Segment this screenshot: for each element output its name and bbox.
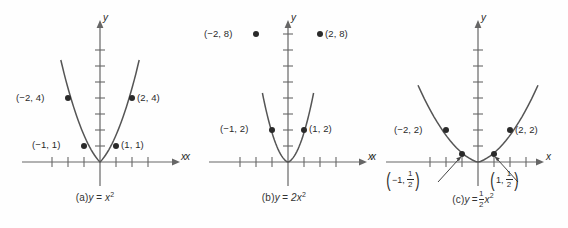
caption-a: (a)y = x2 — [0, 191, 190, 203]
point-marker-2-4 — [129, 95, 135, 101]
caption-c-eq: = — [472, 194, 478, 205]
caption-c: (c)y =12x2 — [378, 189, 568, 209]
frac-label-left: ( −1, 1 2 ) — [385, 170, 421, 189]
point-marker-1-half — [491, 151, 497, 157]
paren-open-right: ( — [490, 175, 494, 185]
frac-left-fraction: 1 2 — [407, 170, 414, 189]
frac-right-lead: 1, — [496, 175, 504, 185]
caption-a-eq: = x — [96, 192, 110, 203]
point-marker-2-2 — [507, 127, 513, 133]
frac-left-lead: −1, — [392, 175, 405, 185]
point-label-neg2-2: (−2, 2) — [394, 124, 422, 135]
caption-a-y: y — [89, 192, 94, 203]
paren-close-left: ) — [415, 175, 419, 185]
point-marker-neg1-1 — [81, 143, 87, 149]
panel-a: x y (−2, 4) (2, 4) (−1, 1) (1, 1) (a)y =… — [0, 0, 190, 228]
caption-b-prefix: (b) — [262, 192, 275, 203]
y-axis-label-c: y — [481, 12, 486, 23]
point-label-2-2: (2, 2) — [515, 124, 538, 135]
x-axis-label-c-left: x — [371, 151, 376, 162]
point-marker-neg2-4 — [65, 95, 71, 101]
caption-a-prefix: (a) — [76, 192, 89, 203]
point-label-neg2-4: (−2, 4) — [16, 92, 44, 103]
frac-right-inner: 1, 1 2 — [496, 170, 513, 189]
panel-c-plot — [378, 0, 568, 190]
caption-a-exp: 2 — [110, 191, 114, 198]
point-label-neg1-2: (−1, 2) — [220, 123, 248, 134]
leader-arrow-left — [438, 160, 458, 182]
caption-b-eq: = 2x — [282, 192, 302, 203]
panel-b: x x y (−2, 8) (2, 8) (−1, 2) (1, 2) (b)y… — [189, 0, 379, 228]
frac-right-numerator: 1 — [507, 170, 511, 178]
point-marker-2-8 — [317, 31, 323, 37]
frac-left-numerator: 1 — [408, 170, 412, 178]
y-axis-label-a: y — [103, 12, 108, 23]
caption-c-prefix: (c) — [452, 194, 464, 205]
point-label-2-4: (2, 4) — [137, 92, 160, 103]
x-axis-arrowhead — [172, 159, 180, 166]
caption-b-exp: 2 — [302, 191, 306, 198]
y-axis-label-b: y — [291, 12, 296, 23]
frac-left-inner: −1, 1 2 — [392, 170, 414, 189]
frac-right-fraction: 1 2 — [506, 170, 513, 189]
parabola-comparison-figure: x y (−2, 4) (2, 4) (−1, 1) (1, 1) (a)y =… — [0, 0, 568, 228]
caption-c-frac-denominator: 2 — [479, 200, 484, 209]
point-marker-1-1 — [113, 143, 119, 149]
x-axis-arrowhead — [359, 159, 367, 166]
point-marker-neg1-half — [459, 151, 465, 157]
point-marker-neg2-8 — [253, 31, 259, 37]
caption-c-frac-numerator: 1 — [479, 189, 484, 198]
x-axis-label-b-left: x — [185, 151, 190, 162]
caption-c-y: y — [464, 194, 469, 205]
paren-open-left: ( — [386, 175, 390, 185]
caption-b: (b)y = 2x2 — [189, 191, 379, 203]
point-label-1-1: (1, 1) — [121, 139, 144, 150]
point-marker-neg2-2 — [443, 127, 449, 133]
caption-b-y: y — [275, 192, 280, 203]
x-axis-label-c-right: x — [546, 151, 551, 162]
point-marker-neg1-2 — [269, 127, 275, 133]
frac-left-denominator: 2 — [408, 181, 412, 189]
paren-close-right: ) — [514, 175, 518, 185]
point-marker-1-2 — [301, 127, 307, 133]
point-label-neg2-8: (−2, 8) — [204, 28, 232, 39]
point-label-2-8: (2, 8) — [325, 28, 348, 39]
frac-right-denominator: 2 — [507, 181, 511, 189]
panel-c: x x y (−2, 2) (2, 2) ( −1, 1 2 ) ( 1, 1 — [378, 0, 568, 228]
caption-c-fraction: 12 — [479, 189, 484, 209]
x-axis-arrowhead — [536, 159, 544, 166]
frac-label-right: ( 1, 1 2 ) — [489, 170, 520, 189]
point-label-1-2: (1, 2) — [309, 123, 332, 134]
caption-c-exp: 2 — [490, 192, 494, 199]
point-label-neg1-1: (−1, 1) — [32, 139, 60, 150]
